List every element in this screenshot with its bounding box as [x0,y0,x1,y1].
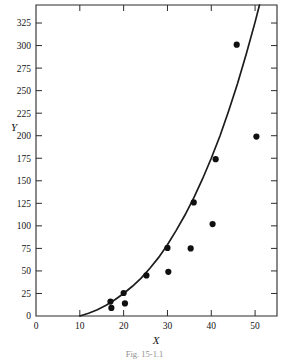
y-tick-label: 325 [17,18,32,28]
data-point [143,272,149,278]
y-tick-label: 100 [17,221,32,231]
figure-container: 0255075100125150175200225250275300325 01… [0,0,289,360]
x-tick-label: 50 [250,321,260,331]
data-point [122,300,128,306]
x-tick-label: 40 [207,321,217,331]
data-point [107,298,113,304]
data-point [209,221,215,227]
figure-caption: Fig. 15-1.1 [0,349,289,359]
y-tick-label: 175 [17,154,32,164]
data-point [188,245,194,251]
x-tick-label: 30 [163,321,173,331]
y-tick-label: 275 [17,64,32,74]
x-tick-label: 10 [75,321,85,331]
x-axis-title: X [152,334,161,346]
y-tick-label: 150 [17,176,32,186]
y-tick-label: 75 [22,244,32,254]
data-point [234,42,240,48]
y-tick-label: 50 [22,266,32,276]
x-tick-label: 0 [34,321,39,331]
data-point [108,305,114,311]
y-tick-label: 0 [26,311,31,321]
data-point [164,245,170,251]
y-tick-label: 250 [17,86,32,96]
y-tick-label: 300 [17,41,32,51]
x-tick-label: 20 [119,321,129,331]
data-point [213,156,219,162]
scatter-plot: 0255075100125150175200225250275300325 01… [0,0,289,360]
data-point [121,290,127,296]
data-point [253,134,259,140]
data-point [191,199,197,205]
y-tick-label: 200 [17,131,32,141]
y-tick-label: 25 [22,289,32,299]
y-tick-label: 125 [17,199,32,209]
data-point [165,269,171,275]
y-tick-label: 225 [17,109,32,119]
